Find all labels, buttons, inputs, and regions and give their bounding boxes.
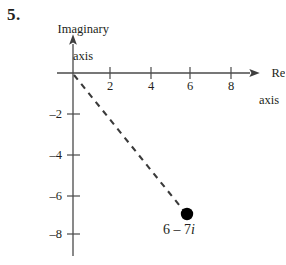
complex-plane-figure: 5. Imaginary axis Rea axis 2 4 6 8 –2 –4… [0, 0, 285, 265]
complex-number-imaginary-coefficient: 7 [184, 222, 191, 237]
y-tick-label-minus-6: –6 [38, 189, 62, 204]
real-axis-label-line1: Rea [272, 66, 286, 80]
complex-number-operator: – [174, 222, 181, 237]
problem-number: 5. [7, 6, 21, 24]
y-tick-label-minus-2: –2 [38, 107, 62, 122]
y-tick-label-minus-8: –8 [38, 227, 62, 242]
x-tick-label-4: 4 [141, 79, 161, 94]
x-tick-label-2: 2 [100, 79, 120, 94]
imaginary-axis-label-line1: Imaginary [58, 22, 109, 36]
imaginary-axis-label-line2: axis [39, 50, 115, 64]
complex-number-point-marker [181, 208, 193, 220]
real-axis-label-line2: axis [259, 94, 285, 108]
y-tick-label-minus-4: –4 [38, 148, 62, 163]
real-axis-label: Rea axis [259, 53, 285, 134]
complex-number-real-part: 6 [163, 222, 170, 237]
complex-number-label: 6 – 7i [163, 222, 195, 238]
imaginary-unit-i: i [191, 222, 195, 237]
vector-dashed-segment [74, 75, 184, 211]
x-tick-label-8: 8 [221, 79, 241, 94]
imaginary-axis-label: Imaginary axis [39, 9, 115, 90]
x-tick-label-6: 6 [180, 79, 200, 94]
